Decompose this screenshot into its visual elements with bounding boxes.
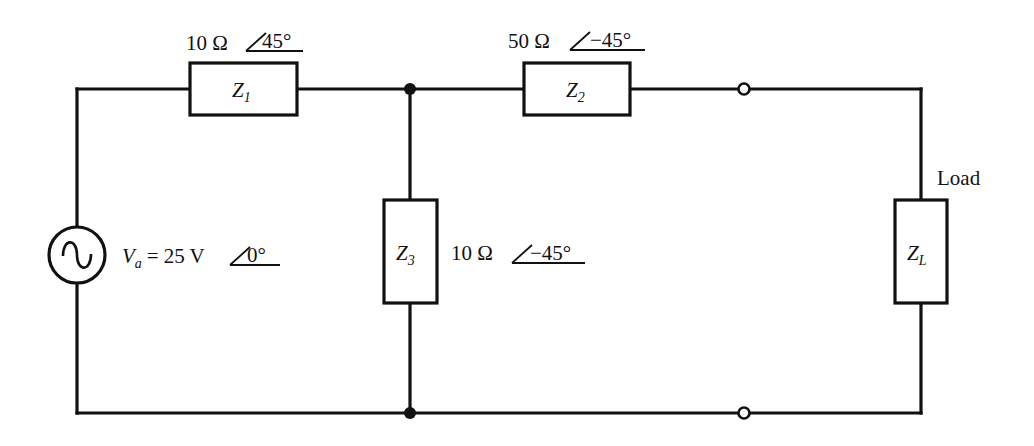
zl-symbol: Z — [907, 241, 919, 265]
z1-magnitude: 10 Ω — [186, 31, 228, 55]
terminal-top — [739, 84, 750, 95]
source-angle: 0° — [247, 243, 266, 267]
source-label: Va=25 V 0° — [122, 243, 280, 271]
z3-subscript: 3 — [407, 253, 415, 268]
zl-subscript: L — [918, 253, 927, 268]
junction-node-bottom — [404, 407, 416, 419]
z2-symbol: Z — [566, 78, 578, 102]
impedance-z3: Z3 10 Ω −45° — [384, 200, 585, 303]
z2-angle: −45° — [590, 28, 631, 52]
z1-symbol: Z — [232, 78, 244, 102]
ac-voltage-source — [49, 227, 105, 283]
circuit-diagram: Va=25 V 0° Z1 10 Ω 45° Z2 50 Ω −45° Z3 1… — [0, 0, 1034, 446]
z3-symbol: Z — [396, 241, 408, 265]
load-label: Load — [937, 166, 981, 190]
impedance-load: ZL Load — [895, 166, 981, 303]
z1-subscript: 1 — [244, 90, 251, 105]
source-subscript: a — [135, 256, 142, 271]
svg-text:Va=25 V: Va=25 V — [122, 244, 205, 271]
junction-node-top — [404, 83, 416, 95]
source-magnitude: 25 V — [164, 244, 205, 268]
terminal-bottom — [739, 408, 750, 419]
z3-angle: −45° — [530, 241, 571, 265]
zl-box — [895, 200, 947, 303]
z1-angle: 45° — [262, 29, 291, 53]
impedance-z1: Z1 10 Ω 45° — [186, 29, 303, 115]
z2-magnitude: 50 Ω — [508, 29, 550, 53]
z3-box — [384, 200, 437, 303]
z2-subscript: 2 — [578, 90, 585, 105]
z3-magnitude: 10 Ω — [451, 241, 493, 265]
impedance-z2: Z2 50 Ω −45° — [508, 28, 645, 115]
source-equals: = — [147, 244, 159, 268]
